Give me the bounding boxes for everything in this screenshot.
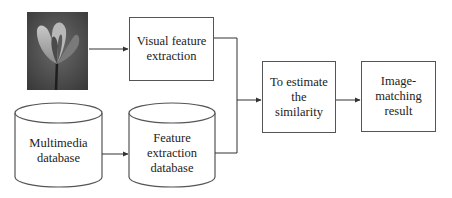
- multimedia-line-2: database: [29, 151, 87, 166]
- visual-feature-line-1: Visual feature: [137, 34, 207, 49]
- similarity-line-2: the: [270, 90, 328, 105]
- visual-feature-line-2: extraction: [137, 49, 207, 64]
- featuredb-line-1: Feature: [147, 131, 197, 146]
- multimedia-database-label: Multimedia database: [15, 123, 102, 179]
- result-label: Image- matching result: [361, 61, 436, 132]
- visual-feature-label: Visual feature extraction: [129, 17, 214, 81]
- similarity-line-3: similarity: [270, 105, 328, 120]
- featuredb-line-3: database: [147, 161, 197, 176]
- query-flower-image: [27, 12, 88, 90]
- similarity-line-1: To estimate: [270, 75, 328, 90]
- connector-visual-to-merge: [213, 38, 237, 153]
- result-line-2: matching: [375, 89, 422, 104]
- featuredb-line-2: extraction: [147, 146, 197, 161]
- result-line-3: result: [375, 104, 422, 119]
- similarity-label: To estimate the similarity: [262, 61, 336, 133]
- multimedia-line-1: Multimedia: [29, 136, 87, 151]
- feature-database-label: Feature extraction database: [129, 123, 215, 183]
- result-line-1: Image-: [375, 74, 422, 89]
